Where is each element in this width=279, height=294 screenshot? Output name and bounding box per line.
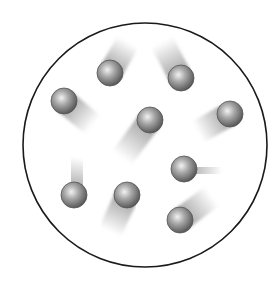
motion-trails — [64, 42, 230, 232]
gas-particle — [167, 207, 193, 233]
gas-particle — [168, 65, 194, 91]
gas-particle — [114, 182, 140, 208]
gas-particles-diagram — [0, 0, 279, 294]
gas-particle — [97, 60, 123, 86]
gas-particle — [137, 107, 163, 133]
gas-particle — [217, 101, 243, 127]
gas-particle — [171, 156, 197, 182]
gas-particle — [61, 182, 87, 208]
gas-particle — [51, 88, 77, 114]
